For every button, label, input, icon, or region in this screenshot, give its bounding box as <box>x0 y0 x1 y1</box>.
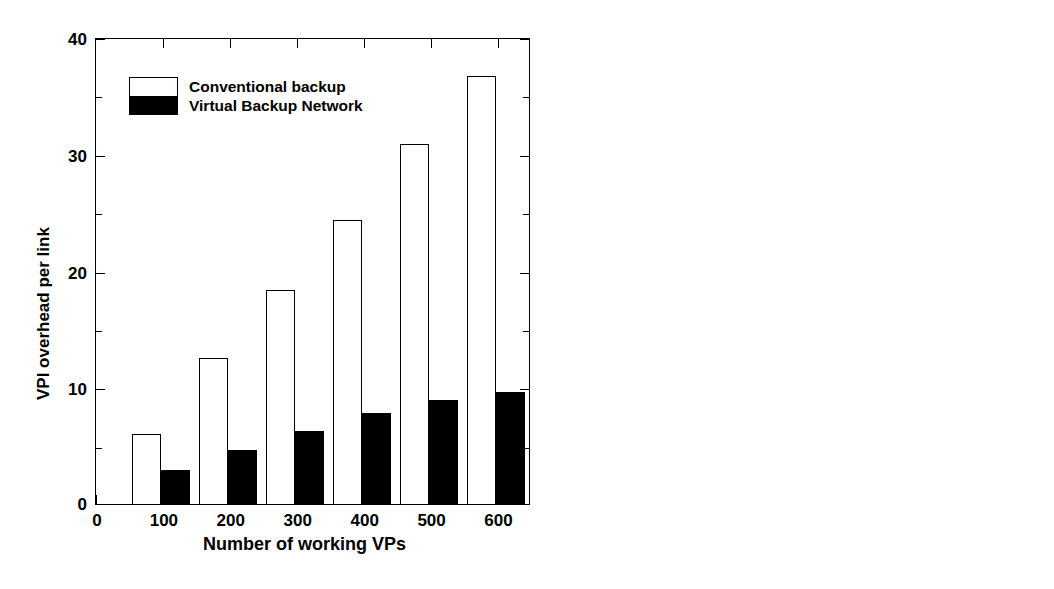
legend-label-conventional: Conventional backup <box>189 77 363 96</box>
bar-conventional-200 <box>199 358 228 504</box>
y-tick-right-minor-15 <box>523 331 529 332</box>
x-tick-0: 0 <box>96 495 97 504</box>
legend-label-virtual: Virtual Backup Network <box>189 96 363 115</box>
bar-virtual-300 <box>295 431 324 505</box>
y-tick-right-minor-25 <box>523 214 529 215</box>
x-tick-top-300 <box>297 39 298 48</box>
x-tick-top-400 <box>364 39 365 48</box>
y-tick-10: 10 <box>96 389 105 390</box>
y-tick-30: 30 <box>96 156 105 157</box>
y-tick-label-0: 0 <box>78 495 87 515</box>
y-tick-label-40: 40 <box>68 30 87 50</box>
legend-swatch-virtual <box>130 96 177 114</box>
x-tick-label-400: 400 <box>351 511 379 531</box>
chart-panel-right: VPI overhead per link 6 4 2 0 <box>540 0 1054 589</box>
x-axis-label-left: Number of working VPs <box>88 534 521 555</box>
y-tick-right-30 <box>520 156 529 157</box>
bar-virtual-100 <box>161 470 190 504</box>
x-tick-label-500: 500 <box>417 511 445 531</box>
bar-virtual-500 <box>429 400 458 504</box>
bar-virtual-600 <box>496 392 525 504</box>
y-tick-right-40 <box>520 39 529 40</box>
chart-panel-left: VPI overhead per link 40 30 20 10 0 <box>0 0 540 589</box>
y-tick-minor-15 <box>96 331 102 332</box>
x-tick-label-600: 600 <box>484 511 512 531</box>
x-tick-top-200 <box>230 39 231 48</box>
y-tick-right-10 <box>520 389 529 390</box>
y-tick-label-20: 20 <box>68 264 87 284</box>
y-tick-20: 20 <box>96 273 105 274</box>
bar-conventional-400 <box>333 220 362 504</box>
y-tick-minor-25 <box>96 214 102 215</box>
y-tick-label-30: 30 <box>68 147 87 167</box>
legend-swatch-icon <box>129 77 178 115</box>
bar-conventional-100 <box>132 434 161 504</box>
bar-conventional-300 <box>266 290 295 504</box>
figure-root: VPI overhead per link 40 30 20 10 0 <box>0 0 1054 589</box>
y-tick-right-minor-35 <box>523 97 529 98</box>
bar-virtual-200 <box>228 450 257 504</box>
y-tick-0: 0 <box>96 504 105 505</box>
y-tick-40: 40 <box>96 39 105 40</box>
x-tick-top-500 <box>431 39 432 48</box>
x-tick-label-100: 100 <box>150 511 178 531</box>
x-tick-label-0: 0 <box>92 511 101 531</box>
x-tick-top-600 <box>498 39 499 48</box>
y-tick-right-20 <box>520 273 529 274</box>
y-tick-label-10: 10 <box>68 380 87 400</box>
bar-conventional-500 <box>400 144 429 504</box>
y-tick-minor-35 <box>96 97 102 98</box>
x-tick-top-100 <box>163 39 164 48</box>
y-axis-label-left: VPI overhead per link <box>34 227 54 400</box>
x-tick-label-200: 200 <box>217 511 245 531</box>
legend-left: Conventional backup Virtual Backup Netwo… <box>129 77 363 115</box>
legend-text-block: Conventional backup Virtual Backup Netwo… <box>189 77 363 115</box>
bar-conventional-600 <box>467 76 496 504</box>
x-tick-label-300: 300 <box>284 511 312 531</box>
bar-virtual-400 <box>362 413 391 504</box>
legend-swatch-conventional <box>130 78 177 96</box>
plot-area-left: 40 30 20 10 0 <box>95 38 530 505</box>
y-tick-minor-5 <box>96 448 102 449</box>
